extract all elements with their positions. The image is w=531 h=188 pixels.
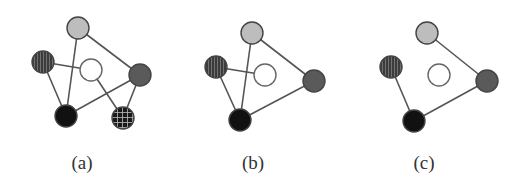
node-right [129,64,151,86]
node-bottom [403,110,425,132]
node-center [428,64,450,86]
node-top [241,22,263,44]
panel-label: (a) [71,152,92,174]
node-striped [380,56,402,78]
node-center [80,59,102,81]
node-top [416,22,438,44]
panel-label: (b) [242,152,264,174]
node-top [67,17,89,39]
nodes-layer [32,17,498,132]
node-grid [112,107,134,129]
edge-right-bottom [240,81,314,120]
panel-label: (c) [413,152,434,174]
node-center [254,64,276,86]
edge-right-bottom [414,81,487,121]
node-striped [32,51,54,73]
node-right [303,70,325,92]
edge-top-bottom [66,28,78,116]
node-right [476,70,498,92]
node-bottom [229,109,251,131]
node-bottom [55,105,77,127]
edge-top-bottom [240,33,252,120]
node-striped [205,56,227,78]
